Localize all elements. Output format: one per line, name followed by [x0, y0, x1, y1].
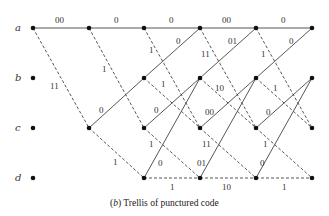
edge-label-s4-a-a: 00 [222, 15, 232, 25]
node-d-t3 [198, 176, 203, 181]
state-label-c: c [15, 122, 21, 133]
node-c-t4 [254, 126, 259, 131]
edge-label-s4-c-b: 00 [205, 107, 215, 117]
edge-label-s3-c-b: 0 [154, 105, 159, 115]
state-label-a: a [15, 22, 21, 33]
caption-text: ) Trellis of punctured code [118, 198, 219, 209]
edge-label-s3-b-a: 0 [176, 36, 181, 46]
edge-label-s5-b-a: 0 [289, 36, 294, 46]
edge-label-s4-b-a: 01 [228, 36, 237, 46]
edge-label-s3-b-c: 1 [161, 79, 166, 89]
node-a-t0 [31, 26, 36, 31]
edge-label-s2-c-d: 1 [113, 157, 118, 167]
edge-label-s2-c-b: 0 [99, 105, 104, 115]
edge-label-s5-d-b: 0 [260, 158, 265, 168]
edge-s2-a-c [89, 28, 144, 128]
node-d-t2 [142, 176, 147, 181]
node-c-t0 [31, 126, 36, 131]
node-a-t4 [254, 26, 259, 31]
node-d-t0 [31, 176, 36, 181]
edge-s1-a-c [33, 28, 89, 128]
edge-label-s5-c-d: 1 [263, 139, 268, 149]
node-b-t2 [142, 76, 147, 81]
node-a-t2 [142, 26, 147, 31]
node-a-t5 [310, 26, 315, 31]
edge-s3-a-c [144, 28, 200, 128]
trellis-diagram: a b c d [0, 0, 329, 216]
node-d-t4 [254, 176, 259, 181]
node-d-t5 [310, 176, 315, 181]
edge-label-s3-d-b: 0 [158, 158, 163, 168]
edge-s2-c-b [89, 78, 144, 128]
node-a-t1 [87, 26, 92, 31]
edge-label-s5-d-d: 1 [282, 182, 287, 192]
edge-label-s3-a-c: 1 [149, 45, 154, 55]
edge-s5-a-c [256, 28, 312, 128]
edge-s4-c-d [200, 128, 256, 178]
node-b-t3 [198, 76, 203, 81]
edge-label-s1-a-c: 11 [50, 81, 59, 91]
node-a-t3 [198, 26, 203, 31]
edge-s3-c-d [144, 128, 200, 178]
edge-s2-c-d [89, 128, 144, 178]
node-c-t2 [142, 126, 147, 131]
edge-label-s5-a-a: 0 [281, 15, 286, 25]
edge-label-s1-a-a: 00 [55, 15, 65, 25]
edge-label-s4-a-c: 11 [201, 49, 210, 59]
figure-caption: (b) Trellis of punctured code [110, 198, 219, 209]
edge-label-s4-d-b: 01 [197, 158, 206, 168]
edge-label-s5-a-c: 1 [261, 49, 266, 59]
edge-label-s3-c-d: 1 [149, 139, 154, 149]
edge-label-s2-a-c: 1 [102, 64, 107, 74]
edge-label-s2-a-a: 0 [114, 15, 119, 25]
edge-label-s3-a-a: 0 [169, 15, 174, 25]
node-b-t4 [254, 76, 259, 81]
node-c-t1 [87, 126, 92, 131]
state-label-b: b [15, 72, 21, 83]
edge-s4-d-b [200, 78, 256, 178]
edge-label-s4-c-d: 11 [202, 139, 211, 149]
edges [33, 28, 312, 178]
node-b-t5 [310, 76, 315, 81]
node-c-t5 [310, 126, 315, 131]
edge-label-s4-b-c: 10 [215, 83, 225, 93]
edge-label-s3-d-d: 1 [170, 182, 175, 192]
node-c-t3 [198, 126, 203, 131]
edge-s3-d-b [144, 78, 200, 178]
edge-s5-c-d [256, 128, 312, 178]
node-b-t0 [31, 76, 36, 81]
state-label-d: d [15, 172, 21, 183]
edge-label-s4-d-d: 10 [222, 182, 232, 192]
edge-label-s5-c-b: 0 [266, 107, 271, 117]
edge-label-s5-b-c: 1 [273, 83, 278, 93]
